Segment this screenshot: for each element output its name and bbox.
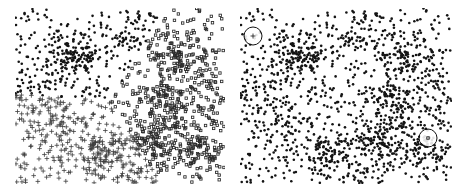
right-panel bbox=[240, 8, 452, 184]
clustered-marker-scatter bbox=[15, 8, 225, 184]
uniform-marker-scatter bbox=[240, 8, 452, 184]
left-panel bbox=[15, 8, 225, 184]
scatter-figure bbox=[0, 0, 467, 194]
